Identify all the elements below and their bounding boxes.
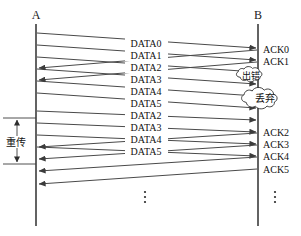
ack-arrow <box>39 169 257 184</box>
ack-arrow <box>39 157 257 171</box>
discard-cloud-label: 丢弃 <box>255 92 275 104</box>
data-label: DATA4 <box>131 134 162 145</box>
ack-labels: ACK0 ACK1 ACK2 ACK3 ACK4 ACK5 <box>263 44 289 175</box>
error-cloud-annotation: 出错 <box>236 67 261 82</box>
host-label-a: A <box>32 8 41 22</box>
data-label: DATA1 <box>131 50 162 61</box>
data-labels: DATA0 DATA1 DATA2 DATA3 DATA4 DATA5 DATA… <box>125 38 168 157</box>
data-label: DATA0 <box>131 38 162 49</box>
sequence-diagram-canvas: A B 重传 <box>0 0 301 236</box>
data-label: DATA5 <box>131 98 162 109</box>
host-label-b: B <box>254 8 262 22</box>
ack-label: ACK1 <box>263 56 289 67</box>
data-label: DATA2 <box>131 62 162 73</box>
ack-label: ACK5 <box>263 164 289 175</box>
ack-label: ACK2 <box>263 127 289 138</box>
retransmission-bracket: 重传 <box>3 118 36 164</box>
ack-label: ACK3 <box>263 139 289 150</box>
ack-label: ACK4 <box>263 151 289 162</box>
data-label: DATA3 <box>131 74 162 85</box>
error-cloud-label: 出错 <box>242 70 260 81</box>
sequence-diagram: A B 重传 <box>0 0 301 236</box>
discard-cloud-annotation: 丢弃 <box>242 87 278 108</box>
retransmission-label: 重传 <box>6 136 26 148</box>
data-label: DATA4 <box>131 86 162 97</box>
data-label: DATA3 <box>131 122 162 133</box>
continuation-dots-a <box>144 191 146 203</box>
ack-label: ACK0 <box>263 44 289 55</box>
continuation-dots-b <box>274 191 276 203</box>
data-label: DATA5 <box>131 146 162 157</box>
data-label: DATA2 <box>131 110 162 121</box>
